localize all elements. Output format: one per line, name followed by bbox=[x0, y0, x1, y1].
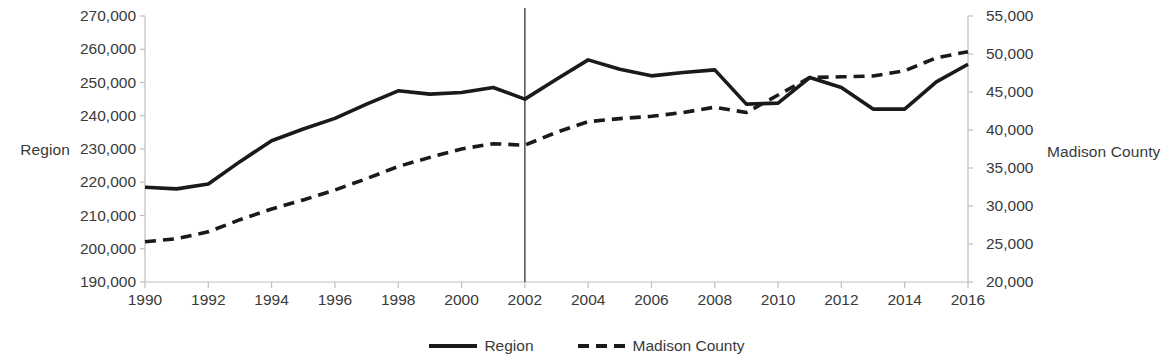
legend-label: Madison County bbox=[633, 337, 745, 355]
dashed-line-icon bbox=[578, 341, 626, 351]
series-lines bbox=[145, 52, 968, 242]
plot-area bbox=[0, 0, 1174, 364]
chart-container: Region Madison County 270,000260,000250,… bbox=[0, 0, 1174, 364]
legend-item-madison-county[interactable]: Madison County bbox=[578, 336, 745, 355]
legend-label: Region bbox=[484, 337, 533, 355]
tick-marks bbox=[140, 16, 973, 288]
legend-item-region[interactable]: Region bbox=[429, 336, 533, 355]
series-line-region bbox=[145, 60, 968, 189]
solid-line-icon bbox=[429, 341, 477, 351]
chart-legend: RegionMadison County bbox=[0, 336, 1174, 355]
axis-lines bbox=[145, 16, 968, 282]
